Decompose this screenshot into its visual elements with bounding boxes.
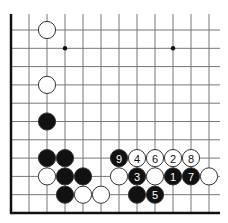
black-stone-icon xyxy=(74,168,91,185)
white-stone-move-4: 4 xyxy=(128,150,145,167)
move-number-label: 4 xyxy=(134,153,140,165)
black-stone-icon xyxy=(38,150,55,167)
black-stone xyxy=(56,186,73,203)
black-stone-icon xyxy=(56,150,73,167)
white-stone-icon xyxy=(38,76,55,93)
go-board-diagram: 946283175 xyxy=(0,0,228,223)
white-stone-icon xyxy=(38,21,55,38)
white-stone xyxy=(146,168,163,185)
white-stone xyxy=(200,168,217,185)
black-stone-icon xyxy=(56,168,73,185)
star-point-icon xyxy=(171,46,175,50)
move-number-label: 9 xyxy=(116,153,122,165)
white-stone-move-8: 8 xyxy=(182,150,199,167)
black-stone xyxy=(74,168,91,185)
white-stone-icon xyxy=(38,168,55,185)
move-number-label: 2 xyxy=(170,153,176,165)
white-stone xyxy=(38,76,55,93)
black-stone-move-7: 7 xyxy=(182,168,199,185)
white-stone xyxy=(110,168,127,185)
white-stone xyxy=(92,186,109,203)
black-stone-icon xyxy=(128,186,145,203)
black-stone xyxy=(38,150,55,167)
white-stone-move-2: 2 xyxy=(164,150,181,167)
move-number-label: 6 xyxy=(152,153,158,165)
black-stone xyxy=(56,150,73,167)
star-point-icon xyxy=(63,46,67,50)
move-number-label: 7 xyxy=(188,171,194,183)
white-stone-icon xyxy=(74,186,91,203)
white-stone-icon xyxy=(110,168,127,185)
white-stone xyxy=(38,168,55,185)
black-stone-icon xyxy=(56,186,73,203)
white-stone-move-6: 6 xyxy=(146,150,163,167)
white-stone xyxy=(38,21,55,38)
black-stone-move-9: 9 xyxy=(110,150,127,167)
move-number-label: 3 xyxy=(134,171,140,183)
white-stone-icon xyxy=(146,168,163,185)
white-stone-icon xyxy=(92,186,109,203)
white-stone-icon xyxy=(200,168,217,185)
black-stone xyxy=(128,186,145,203)
black-stone-move-5: 5 xyxy=(146,186,163,203)
black-stone xyxy=(56,168,73,185)
black-stone-move-1: 1 xyxy=(164,168,181,185)
move-number-label: 1 xyxy=(170,171,176,183)
move-number-label: 5 xyxy=(152,189,158,201)
move-number-label: 8 xyxy=(188,153,194,165)
black-stone xyxy=(38,113,55,130)
black-stone-move-3: 3 xyxy=(128,168,145,185)
white-stone xyxy=(74,186,91,203)
black-stone-icon xyxy=(38,113,55,130)
